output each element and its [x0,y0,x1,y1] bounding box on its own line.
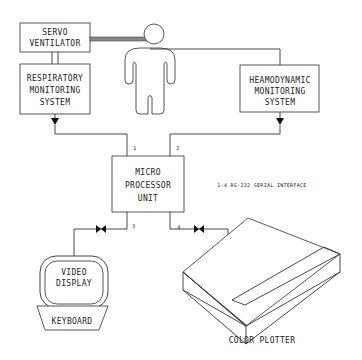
resp-label-2: MONITORING [29,86,80,95]
resp-label-3: SYSTEM [40,98,71,107]
port-2-label: 2 [176,145,179,151]
mpu-label-2: PROCESSOR [125,181,171,190]
keyboard-label: KEYBOARD [52,317,93,326]
connector-icon [96,225,101,233]
ventilator-tube [90,37,148,41]
system-diagram: SERVO VENTILATOR RESPIRATORY MONITORING … [0,0,362,360]
heamodynamic-monitoring-box: HEAMODYNAMIC MONITORING SYSTEM [240,65,319,112]
servo-label-1: SERVO [42,28,68,37]
heam-label-1: HEAMODYNAMIC [249,76,310,85]
video-label-2: DISPLAY [56,279,92,288]
port-1-label: 1 [133,145,136,151]
arrow-down-icon [51,118,59,125]
heam-label-3: SYSTEM [265,98,296,107]
mpu-label-3: UNIT [138,194,158,203]
port-3-label: 3 [132,223,135,229]
serial-interface-legend: 1-4 RS-232 SERIAL INTERFACE [217,182,306,188]
mpu-label-1: MICRO [135,168,161,177]
servo-label-2: VENTILATOR [29,39,80,48]
keyboard-icon: KEYBOARD [37,306,108,330]
arrow-down-icon [276,118,284,125]
resp-label-1: RESPIRATORY [27,74,83,83]
heam-label-2: MONITORING [254,87,305,96]
connector-icon [194,225,199,233]
color-plotter-label: COLOR PLOTTER [229,336,296,345]
respiratory-monitoring-box: RESPIRATORY MONITORING SYSTEM [20,64,90,114]
video-label-1: VIDEO [61,268,87,277]
color-plotter-icon [183,218,340,344]
video-display-icon: VIDEO DISPLAY [40,256,108,308]
servo-ventilator-box: SERVO VENTILATOR [20,23,90,52]
microprocessor-unit-box: MICRO PROCESSOR UNIT [112,156,184,212]
